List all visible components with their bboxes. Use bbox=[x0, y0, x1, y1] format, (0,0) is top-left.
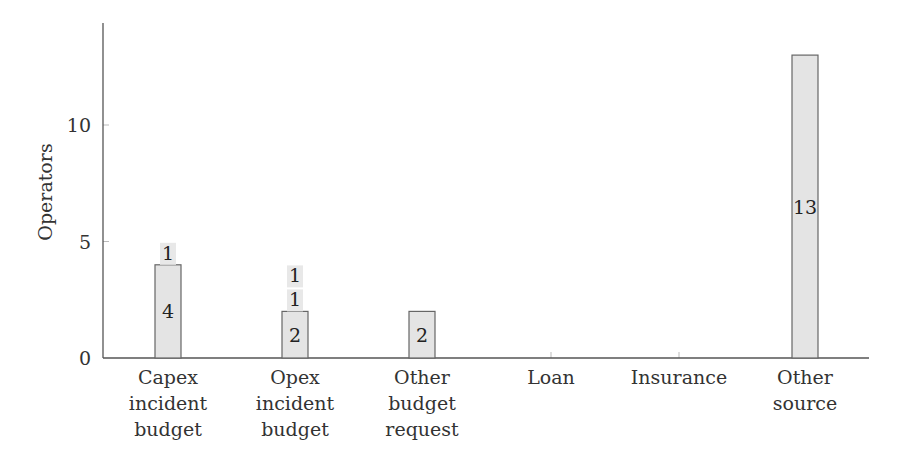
bar-value-label: 2 bbox=[289, 324, 301, 346]
stack-value-label: 1 bbox=[162, 242, 174, 264]
x-category-label: Loan bbox=[527, 366, 575, 388]
bars bbox=[155, 55, 818, 358]
bar-value-label: 13 bbox=[793, 196, 817, 218]
bar-chart: 0510CapexincidentbudgetOpexincidentbudge… bbox=[0, 0, 904, 467]
x-category-label: Other bbox=[777, 366, 834, 388]
y-tick-label: 0 bbox=[79, 347, 91, 369]
x-category-label: Other bbox=[394, 366, 451, 388]
x-category-label: Capex bbox=[138, 366, 198, 388]
x-category-label: budget bbox=[134, 418, 202, 440]
y-tick-label: 10 bbox=[67, 114, 91, 136]
axes: 0510CapexincidentbudgetOpexincidentbudge… bbox=[67, 23, 869, 440]
x-category-label: Opex bbox=[270, 366, 320, 388]
bar-value-label: 4 bbox=[162, 300, 174, 322]
x-category-label: budget bbox=[388, 392, 456, 414]
labels: 41211213 bbox=[160, 196, 817, 346]
x-category-label: incident bbox=[256, 392, 335, 414]
stack-value-label: 1 bbox=[289, 264, 301, 286]
x-category-label: request bbox=[385, 418, 459, 440]
x-category-label: Insurance bbox=[631, 366, 727, 388]
x-category-label: incident bbox=[129, 392, 208, 414]
y-tick-label: 5 bbox=[79, 231, 91, 253]
bar-value-label: 2 bbox=[416, 324, 428, 346]
y-axis-label: Operators bbox=[34, 143, 56, 240]
x-category-label: source bbox=[773, 392, 837, 414]
stack-value-label: 1 bbox=[289, 288, 301, 310]
x-category-label: budget bbox=[261, 418, 329, 440]
